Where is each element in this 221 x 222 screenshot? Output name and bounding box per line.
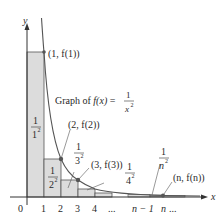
svg-text:1: 1	[33, 115, 38, 126]
x-axis-label: x	[210, 191, 216, 202]
rect-4	[78, 189, 95, 197]
svg-text:2: 2	[49, 179, 54, 190]
svg-text:1: 1	[32, 129, 37, 140]
svg-text:x: x	[124, 104, 129, 114]
y-axis-label: y	[22, 15, 28, 26]
tick-labels: 0 1 2 3 4 ... n − 1 n ...	[18, 203, 177, 214]
graph-label: Graph of f(x) = 1 x 2	[55, 90, 134, 114]
svg-text:3: 3	[75, 203, 80, 214]
svg-text:n: n	[159, 160, 164, 171]
label-point-n: (n, f(n))	[173, 172, 205, 184]
svg-text:2: 2	[132, 173, 135, 179]
svg-text:1: 1	[41, 203, 46, 214]
rect-label-3: 1 3 2	[74, 141, 84, 166]
svg-text:1: 1	[126, 90, 131, 100]
rect-label-4: 1 4 2	[125, 161, 135, 186]
svg-text:2: 2	[81, 153, 84, 159]
svg-text:...: ...	[108, 203, 116, 214]
svg-text:1: 1	[50, 165, 55, 176]
svg-text:n − 1: n − 1	[132, 203, 154, 214]
point-1	[42, 50, 46, 54]
svg-text:...: ...	[169, 203, 177, 214]
svg-text:Graph of f(x) =: Graph of f(x) =	[55, 95, 116, 107]
svg-text:2: 2	[131, 102, 134, 108]
rect-3	[61, 180, 78, 197]
rect-label-n: 1 n 2	[159, 146, 169, 171]
svg-text:2: 2	[165, 158, 168, 164]
svg-text:1: 1	[127, 161, 132, 172]
svg-text:1: 1	[161, 146, 166, 157]
svg-text:2: 2	[38, 127, 41, 133]
svg-text:2: 2	[55, 177, 58, 183]
svg-text:3: 3	[75, 155, 80, 166]
svg-text:n: n	[161, 203, 166, 214]
svg-text:0: 0	[18, 203, 23, 214]
label-point-3: (3, f(3))	[91, 159, 123, 171]
label-point-2: (2, f(2))	[68, 119, 100, 131]
rect-5	[95, 193, 112, 197]
svg-text:1: 1	[76, 141, 81, 152]
svg-text:4: 4	[92, 203, 97, 214]
diagram-canvas: y x 0 1 2 3 4 ... n − 1 n ... (1, f(1)) …	[0, 0, 221, 222]
svg-text:2: 2	[58, 203, 63, 214]
svg-text:4: 4	[126, 175, 131, 186]
label-point-1: (1, f(1))	[48, 48, 80, 60]
x-axis-arrow-icon	[201, 195, 208, 200]
